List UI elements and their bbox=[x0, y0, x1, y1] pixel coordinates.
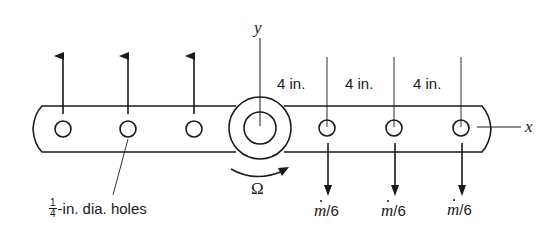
right-arm-outline bbox=[284, 106, 491, 152]
down-arrowhead-icon bbox=[391, 185, 399, 196]
spacing-label-3: 4 in. bbox=[413, 76, 441, 91]
rotation-omega-label: Ω bbox=[251, 180, 264, 197]
m-dot-symbol: m bbox=[314, 202, 326, 219]
hole-left-2 bbox=[120, 121, 136, 137]
flow-suffix: /6 bbox=[326, 202, 339, 219]
y-axis-label: y bbox=[254, 19, 262, 36]
m-dot-symbol: m bbox=[381, 202, 393, 219]
down-arrowhead-icon bbox=[458, 185, 466, 196]
m-dot-symbol: m bbox=[447, 201, 459, 218]
hole-left-3 bbox=[186, 121, 202, 137]
spacing-label-2: 4 in. bbox=[345, 76, 373, 91]
hole-note-leader-line bbox=[113, 139, 128, 195]
flow-suffix: /6 bbox=[393, 202, 406, 219]
spacing-label-1: 4 in. bbox=[277, 76, 305, 91]
fraction-one-quarter: 1 4 bbox=[49, 198, 57, 219]
flow-label-1: m/6 bbox=[314, 202, 339, 219]
rotation-arrow-icon bbox=[231, 169, 283, 177]
flow-suffix: /6 bbox=[459, 201, 472, 218]
flow-label-2: m/6 bbox=[381, 202, 406, 219]
down-arrowhead-icon bbox=[324, 185, 332, 196]
hole-left-1 bbox=[55, 121, 71, 137]
fraction-denominator: 4 bbox=[49, 209, 57, 219]
hole-note-label: 1 4 -in. dia. holes bbox=[49, 198, 147, 219]
hole-note-text: -in. dia. holes bbox=[58, 200, 147, 217]
x-axis-label: x bbox=[525, 118, 533, 135]
flow-label-3: m/6 bbox=[447, 201, 472, 218]
